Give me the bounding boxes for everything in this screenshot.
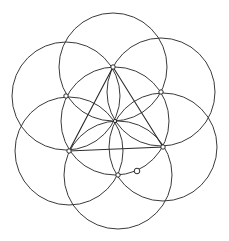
point-lower-left[interactable] [67,149,71,153]
point-lower-right[interactable] [161,145,165,149]
points-group [64,65,165,177]
point-upper-left[interactable] [64,94,68,98]
point-center[interactable] [113,119,116,122]
geometric-construction [0,0,229,241]
point-bottom[interactable] [116,173,120,177]
point-top[interactable] [111,65,115,69]
free-point[interactable] [134,168,140,174]
point-upper-right[interactable] [159,90,163,94]
